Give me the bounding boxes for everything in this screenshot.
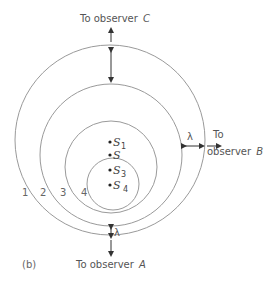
svg-text:3: 3 bbox=[121, 170, 126, 179]
svg-text:1: 1 bbox=[121, 142, 126, 151]
observer-b-label-line1: To bbox=[212, 129, 224, 140]
wavefront-label-1: 1 bbox=[22, 187, 28, 198]
wavelength-label-right: λ bbox=[187, 131, 193, 142]
observer-a-label: To observer A bbox=[75, 259, 146, 270]
svg-text:S: S bbox=[113, 164, 121, 177]
source-s4: S 4 bbox=[108, 179, 128, 194]
wavefront-label-3: 3 bbox=[60, 187, 66, 198]
source-s3: S 3 bbox=[108, 164, 126, 179]
observer-c-label: To observer C bbox=[79, 13, 150, 24]
svg-text:S: S bbox=[113, 136, 121, 149]
source-s: S bbox=[108, 149, 121, 162]
wavefront-1 bbox=[15, 45, 205, 235]
svg-text:4: 4 bbox=[123, 185, 128, 194]
wavefront-label-4: 4 bbox=[81, 187, 87, 198]
svg-text:S: S bbox=[113, 179, 121, 192]
observer-b-label-line2: observer B bbox=[207, 146, 263, 157]
wavelength-label-bottom: λ bbox=[114, 227, 120, 238]
panel-label: (b) bbox=[22, 259, 36, 270]
svg-text:S: S bbox=[113, 149, 121, 162]
wavefront-label-2: 2 bbox=[40, 187, 46, 198]
wavefront-3 bbox=[65, 121, 157, 213]
doppler-wavefront-diagram: To observer C λ To observer B S 1 S S 3 … bbox=[0, 0, 266, 282]
